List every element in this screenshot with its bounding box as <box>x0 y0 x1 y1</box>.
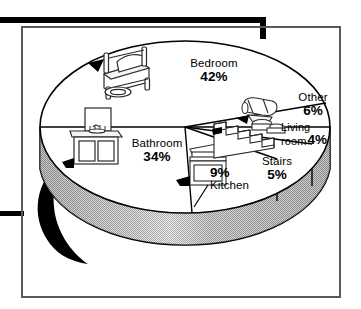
label-bedroom-percent: 42% <box>174 70 254 84</box>
label-bathroom-name: Bathroom <box>118 138 196 150</box>
label-bathroom-percent: 34% <box>118 150 196 164</box>
label-living-room-percent: 4% <box>307 133 327 147</box>
figure-root: Bedroom 42% Other 6% Bathroom 34% Living… <box>0 0 361 309</box>
label-other-name: Other <box>284 92 342 104</box>
label-bedroom: Bedroom 42% <box>174 58 254 83</box>
label-living-room-name-line2: room <box>281 136 306 147</box>
label-living-room: Living room 4% <box>281 122 357 147</box>
label-other: Other 6% <box>284 92 342 117</box>
label-bathroom: Bathroom 34% <box>118 138 196 163</box>
label-bedroom-name: Bedroom <box>174 58 254 70</box>
label-other-percent: 6% <box>284 104 342 118</box>
label-kitchen: 9% Kitchen <box>210 166 262 191</box>
label-kitchen-name: Kitchen <box>210 180 262 192</box>
label-kitchen-percent: 9% <box>210 166 262 180</box>
